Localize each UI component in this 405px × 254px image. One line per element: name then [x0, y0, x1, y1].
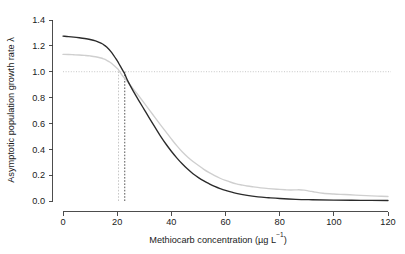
x-tick-label: 120: [380, 217, 395, 227]
x-tick-label: 20: [112, 217, 122, 227]
x-axis-title: Methiocarb concentration (µg L−1): [149, 231, 286, 246]
y-tick-label: 1.4: [32, 15, 45, 25]
x-tick-label: 0: [60, 217, 65, 227]
series-grey-curve: [63, 54, 388, 196]
x-tick-label: 60: [220, 217, 230, 227]
y-tick-label: 0.0: [32, 196, 45, 206]
x-tick-label: 100: [326, 217, 341, 227]
y-tick-label: 0.8: [32, 93, 45, 103]
y-axis-title: Asymptotic population growth rate λ: [6, 37, 16, 183]
y-tick-label: 1.2: [32, 41, 45, 51]
y-tick-label: 0.6: [32, 119, 45, 129]
series-black-curve: [63, 36, 388, 200]
axes-group: [49, 20, 389, 216]
x-tick-label: 40: [166, 217, 176, 227]
data-series-group: [63, 36, 388, 200]
chart-plot-area: 0204060801001200.00.20.40.60.81.01.21.4 …: [0, 0, 405, 254]
chart-figure: 0204060801001200.00.20.40.60.81.01.21.4 …: [0, 0, 405, 254]
x-tick-label: 80: [275, 217, 285, 227]
y-tick-label: 0.2: [32, 170, 45, 180]
y-tick-label: 0.4: [32, 145, 45, 155]
tick-labels-group: 0204060801001200.00.20.40.60.81.01.21.4: [32, 15, 395, 227]
y-tick-label: 1.0: [32, 67, 45, 77]
